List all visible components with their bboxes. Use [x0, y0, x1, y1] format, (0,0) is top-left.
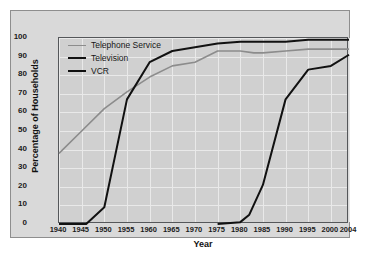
legend-swatch — [68, 70, 86, 72]
y-tick-label: 90 — [1, 52, 27, 60]
y-tick-label: 60 — [1, 107, 27, 115]
legend-swatch — [68, 45, 86, 46]
legend-label: VCR — [91, 67, 109, 76]
x-tick-label: 2004 — [333, 226, 363, 234]
y-tick-label: 10 — [1, 200, 27, 208]
y-tick-label: 100 — [1, 33, 27, 41]
y-tick-label: 50 — [1, 126, 27, 134]
legend-label: Television — [91, 54, 128, 63]
chart-figure: Percentage of Households Year 0102030405… — [0, 0, 366, 260]
y-tick-label: 0 — [1, 219, 27, 227]
legend-label: Telephone Service — [91, 41, 161, 50]
y-tick-label: 30 — [1, 163, 27, 171]
y-tick-label: 80 — [1, 70, 27, 78]
chart-card: Percentage of Households Year 0102030405… — [10, 10, 350, 238]
x-axis-title: Year — [58, 239, 348, 249]
legend-swatch — [68, 57, 86, 59]
legend-item: Telephone Service — [68, 40, 161, 50]
legend-item: Television — [68, 53, 161, 63]
y-axis-title: Percentage of Households — [30, 36, 40, 196]
y-tick-label: 40 — [1, 145, 27, 153]
gridline-vertical — [349, 38, 350, 222]
series-line — [218, 55, 349, 224]
legend-item: VCR — [68, 66, 161, 76]
chart-legend: Telephone ServiceTelevisionVCR — [68, 40, 161, 76]
y-tick-label: 70 — [1, 89, 27, 97]
y-tick-label: 20 — [1, 182, 27, 190]
